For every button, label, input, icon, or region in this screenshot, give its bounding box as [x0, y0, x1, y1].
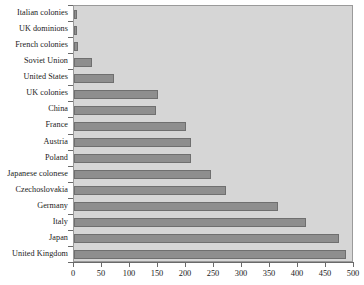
- x-axis-label: 50: [86, 268, 116, 279]
- bar-row: [74, 22, 352, 39]
- y-axis-label: France: [0, 120, 68, 130]
- x-axis-tick: [353, 262, 354, 267]
- bar: [74, 90, 158, 99]
- bar-row: [74, 231, 352, 248]
- bar-row: [74, 215, 352, 232]
- y-axis-label: Czechoslovakia: [0, 185, 68, 195]
- y-axis-label-group: Italian coloniesUK dominionsFrench colon…: [0, 5, 68, 262]
- bar: [74, 106, 156, 115]
- bar: [74, 170, 211, 179]
- x-axis-label: 300: [226, 268, 256, 279]
- bar: [74, 10, 77, 19]
- y-axis-label: Japanese colonese: [0, 169, 68, 179]
- x-axis-tick: [73, 262, 74, 267]
- y-axis-label: Italian colonies: [0, 8, 68, 18]
- x-axis-label: 250: [198, 268, 228, 279]
- y-axis-label: China: [0, 104, 68, 114]
- bar-row: [74, 70, 352, 87]
- bar: [74, 202, 278, 211]
- x-axis-label: 200: [170, 268, 200, 279]
- y-axis-label: Austria: [0, 137, 68, 147]
- bar-row: [74, 135, 352, 152]
- bar: [74, 218, 306, 227]
- x-axis-tick: [269, 262, 270, 267]
- x-axis-label: 150: [142, 268, 172, 279]
- bar-row: [74, 183, 352, 200]
- y-axis-label: UK dominions: [0, 24, 68, 34]
- x-axis-label: 500: [338, 268, 364, 279]
- bar: [74, 42, 78, 51]
- bar: [74, 234, 339, 243]
- y-axis-label: Germany: [0, 201, 68, 211]
- bar-row: [74, 38, 352, 55]
- x-axis-tick: [297, 262, 298, 267]
- x-axis-tick: [129, 262, 130, 267]
- bar: [74, 122, 186, 131]
- plot-area: [73, 5, 353, 262]
- bar: [74, 74, 114, 83]
- bar: [74, 250, 346, 259]
- y-axis-label: Italy: [0, 217, 68, 227]
- bar-row: [74, 247, 352, 262]
- bar-row: [74, 167, 352, 184]
- x-axis-tick: [157, 262, 158, 267]
- y-axis-label: Soviet Union: [0, 56, 68, 66]
- bar: [74, 138, 191, 147]
- x-axis-label: 0: [58, 268, 88, 279]
- y-axis-label: Japan: [0, 233, 68, 243]
- x-axis-tick: [185, 262, 186, 267]
- bar-row: [74, 118, 352, 135]
- x-axis-label: 350: [254, 268, 284, 279]
- x-axis-label: 400: [282, 268, 312, 279]
- y-axis-label: French colonies: [0, 40, 68, 50]
- bar-row: [74, 199, 352, 216]
- bar: [74, 26, 77, 35]
- bar-row: [74, 102, 352, 119]
- x-axis-tick: [213, 262, 214, 267]
- bar-row: [74, 151, 352, 168]
- x-axis-tick: [101, 262, 102, 267]
- y-axis-label: United Kingdom: [0, 249, 68, 259]
- bar: [74, 186, 226, 195]
- bar: [74, 154, 191, 163]
- bar-row: [74, 54, 352, 71]
- x-axis-tick: [241, 262, 242, 267]
- y-axis-label: UK colonies: [0, 88, 68, 98]
- x-axis-label: 450: [310, 268, 340, 279]
- bar: [74, 58, 92, 67]
- bar-row: [74, 86, 352, 103]
- y-axis-label: Poland: [0, 153, 68, 163]
- y-axis-label: United States: [0, 72, 68, 82]
- x-axis-label: 100: [114, 268, 144, 279]
- x-axis-tick: [325, 262, 326, 267]
- bar-row: [74, 6, 352, 23]
